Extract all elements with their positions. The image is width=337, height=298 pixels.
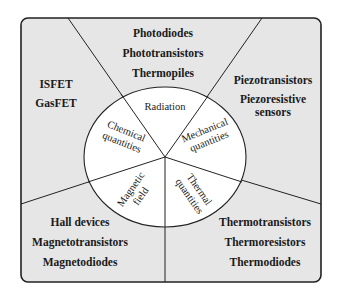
chemical-sensor-1: ISFET	[39, 78, 73, 90]
thermal-sensor-3: Thermodiodes	[230, 256, 301, 268]
chemical-sensor-2: GasFET	[35, 97, 77, 109]
radiation-sensor-2: Phototransistors	[122, 47, 204, 59]
sensor-classification-diagram: Radiation Chemical quantities Mechanical…	[0, 0, 337, 298]
thermal-sensor-1: Thermotransistors	[219, 216, 312, 228]
magnetic-sensor-1: Hall devices	[50, 216, 110, 228]
magnetic-sensor-3: Magnetodiodes	[43, 256, 118, 269]
thermal-sensor-2: Thermoresistors	[225, 236, 306, 248]
mechanical-sensor-2: Piezoresistive	[240, 93, 306, 105]
radiation-sensor-3: Thermopiles	[132, 67, 194, 80]
radiation-sensor-1: Photodiodes	[133, 27, 194, 39]
magnetic-sensor-2: Magnetotransistors	[32, 236, 128, 249]
mechanical-sensor-1: Piezotransistors	[234, 74, 313, 86]
label-radiation: Radiation	[145, 101, 187, 112]
mechanical-sensor-3: sensors	[255, 106, 291, 118]
